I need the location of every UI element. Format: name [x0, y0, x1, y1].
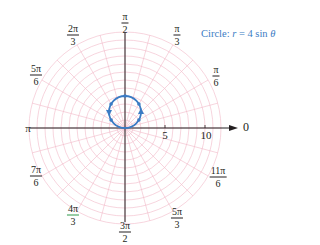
grid-spoke — [57, 128, 125, 196]
angle-label-4pi-3: 4π3 — [67, 204, 79, 227]
curve-point — [137, 118, 141, 122]
polar-axes — [30, 33, 238, 222]
angle-label-7pi-6: 7π6 — [30, 165, 42, 188]
grid-spoke — [125, 45, 173, 128]
angle-label-0: 0 — [243, 121, 249, 133]
tick-label-10: 10 — [201, 129, 212, 141]
grid-spoke — [42, 128, 125, 176]
angle-label-pi: π — [25, 123, 31, 134]
caption-lhs: r — [232, 28, 236, 39]
angle-label-2pi-3: 2π3 — [67, 24, 79, 47]
angle-label-3pi-2: 3π2 — [119, 221, 131, 244]
curve-point — [123, 94, 127, 98]
curve-point — [109, 118, 113, 122]
grid-spoke — [77, 128, 125, 211]
curve-point — [109, 102, 113, 106]
tick-label-5: 5 — [162, 129, 168, 141]
caption-rhs: = 4 sin — [239, 28, 268, 39]
angle-label-pi-3: π3 — [173, 24, 180, 47]
angle-label-5pi-3: 5π3 — [171, 207, 183, 230]
grid-spoke — [77, 45, 125, 128]
caption-prefix: Circle: — [201, 28, 230, 39]
curve-point — [137, 102, 141, 106]
grid-spoke — [125, 60, 193, 128]
grid-spoke — [125, 128, 193, 196]
chart-caption: Circle: r = 4 sin θ — [201, 28, 275, 39]
angle-label-pi-2: π2 — [121, 12, 128, 35]
axis-arrow-icon — [229, 125, 238, 131]
direction-arrow-icon — [106, 110, 112, 116]
angle-label-pi-6: π6 — [212, 65, 219, 88]
direction-arrow-icon — [138, 108, 144, 114]
angle-label-5pi-6: 5π6 — [30, 64, 42, 87]
caption-var: θ — [270, 28, 275, 39]
grid-spoke — [57, 60, 125, 128]
angle-label-11pi-6: 11π6 — [210, 166, 227, 189]
